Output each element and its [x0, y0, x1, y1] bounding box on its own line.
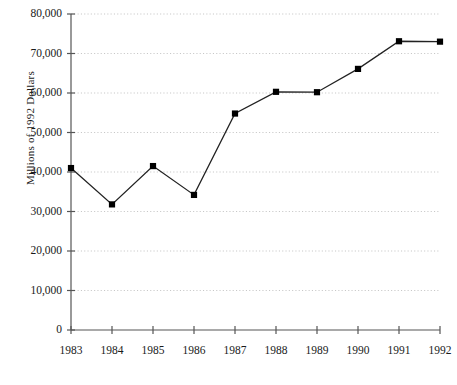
- data-point-marker: [232, 110, 238, 116]
- data-markers: [68, 38, 443, 207]
- y-axis-tick-label: 20,000: [0, 245, 62, 257]
- y-axis-tick-label: 70,000: [0, 48, 62, 60]
- data-point-marker: [150, 163, 156, 169]
- y-axis-tick-label: 0: [0, 324, 62, 336]
- data-point-marker: [355, 66, 361, 72]
- data-point-marker: [273, 89, 279, 95]
- x-axis-tick-label: 1987: [212, 345, 258, 357]
- x-axis-tick-label: 1992: [417, 345, 457, 357]
- y-axis-tick-label: 50,000: [0, 127, 62, 139]
- data-point-marker: [68, 165, 74, 171]
- data-point-marker: [191, 192, 197, 198]
- x-axis-tick-label: 1985: [130, 345, 176, 357]
- y-axis-tick-label: 60,000: [0, 87, 62, 99]
- data-point-marker: [314, 89, 320, 95]
- data-line: [71, 41, 440, 204]
- y-axis-tick-label: 80,000: [0, 8, 62, 20]
- x-axis-tick-label: 1989: [294, 345, 340, 357]
- x-axis-tick-label: 1991: [376, 345, 422, 357]
- y-axis-tick-label: 40,000: [0, 166, 62, 178]
- plot-area: [0, 0, 457, 385]
- x-axis-tick-label: 1984: [89, 345, 135, 357]
- line-chart: Millions of 1992 Dollars 010,00020,00030…: [0, 0, 457, 385]
- x-axis-tick-label: 1990: [335, 345, 381, 357]
- data-point-marker: [396, 38, 402, 44]
- y-axis-tick-label: 10,000: [0, 285, 62, 297]
- data-point-marker: [109, 201, 115, 207]
- data-point-marker: [437, 39, 443, 45]
- x-axis-tick-label: 1988: [253, 345, 299, 357]
- x-axis-tick-label: 1986: [171, 345, 217, 357]
- gridlines: [71, 14, 440, 291]
- y-axis-tick-label: 30,000: [0, 206, 62, 218]
- x-axis-tick-label: 1983: [48, 345, 94, 357]
